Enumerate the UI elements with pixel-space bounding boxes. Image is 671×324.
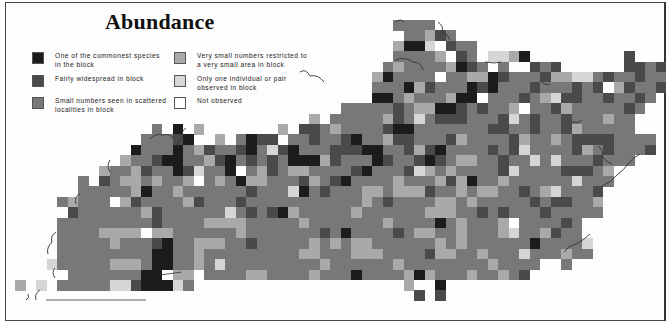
state-border-lines <box>0 0 671 324</box>
